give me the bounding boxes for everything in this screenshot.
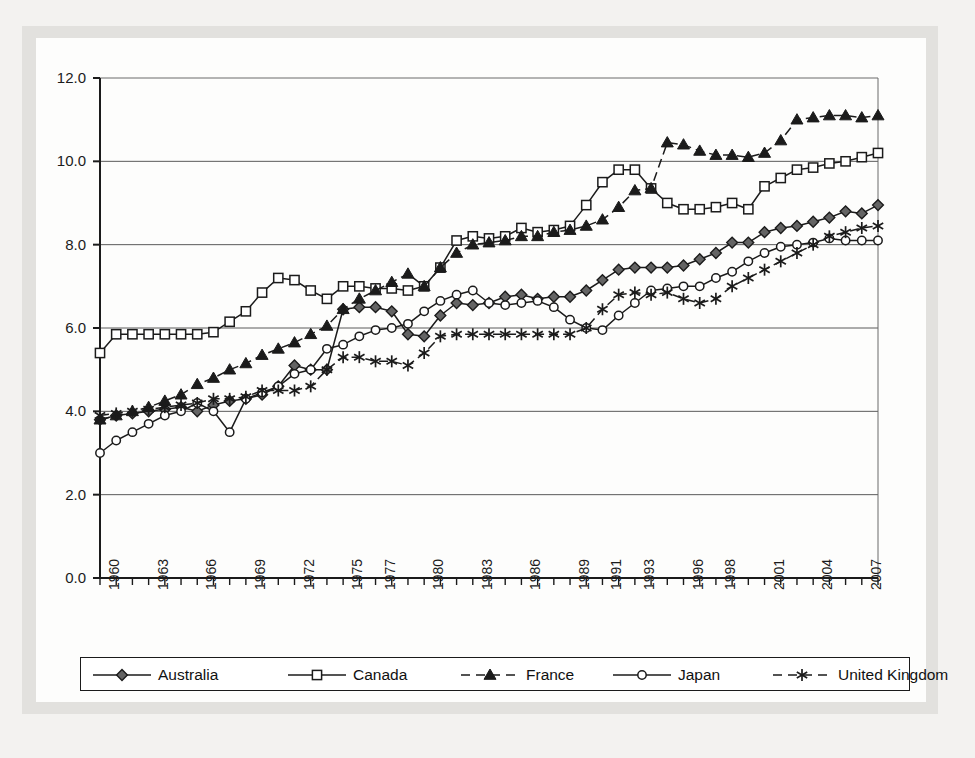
- filled-triangle-marker: [694, 145, 706, 155]
- x-tick-label: 1996: [690, 559, 706, 590]
- legend-item-japan[interactable]: Japan: [611, 658, 720, 692]
- open-square-marker: [95, 348, 104, 357]
- filled-diamond-marker: [856, 208, 867, 219]
- open-square-marker: [112, 330, 121, 339]
- asterisk-marker: [792, 247, 802, 259]
- open-circle-marker: [760, 249, 768, 257]
- x-tick-label: 1983: [479, 559, 495, 590]
- asterisk-marker: [840, 226, 850, 238]
- filled-diamond-marker: [678, 260, 689, 271]
- filled-triangle-marker: [353, 293, 365, 303]
- y-tick-label: 0.0: [40, 570, 86, 585]
- filled-diamond-marker: [840, 206, 851, 217]
- filled-triangle-marker: [596, 214, 608, 224]
- open-square-marker: [695, 205, 704, 214]
- open-circle-marker: [96, 449, 104, 457]
- filled-diamond-marker: [467, 300, 478, 311]
- filled-diamond-marker: [403, 329, 414, 340]
- open-square-marker: [728, 198, 737, 207]
- open-circle-marker: [112, 436, 120, 444]
- filled-diamond-marker: [386, 306, 397, 317]
- x-tick-label: 1969: [252, 559, 268, 590]
- x-tick-label: 1998: [722, 559, 738, 590]
- line-chart: 0.02.04.06.08.010.012.0 1960196319661969…: [0, 0, 975, 758]
- filled-triangle-marker: [678, 139, 690, 149]
- filled-diamond-marker: [824, 212, 835, 223]
- open-square-marker: [290, 275, 299, 284]
- open-square-marker: [452, 236, 461, 245]
- filled-diamond-marker: [629, 262, 640, 273]
- legend-label: Canada: [353, 666, 407, 684]
- filled-triangle-marker: [791, 114, 803, 124]
- legend-item-australia[interactable]: Australia: [91, 658, 218, 692]
- open-circle-marker: [225, 428, 233, 436]
- asterisk-marker: [306, 380, 316, 392]
- asterisk-marker: [678, 293, 688, 305]
- open-square-marker: [663, 198, 672, 207]
- open-square-marker: [339, 282, 348, 291]
- open-circle-marker: [388, 324, 396, 332]
- open-circle-marker: [517, 299, 525, 307]
- open-square-marker: [306, 286, 315, 295]
- asterisk-marker: [338, 351, 348, 363]
- asterisk-marker: [776, 255, 786, 267]
- plot-svg: [0, 0, 975, 758]
- open-square-marker: [582, 200, 591, 209]
- open-circle-marker: [566, 315, 574, 323]
- open-square-marker: [841, 157, 850, 166]
- chart-legend: AustraliaCanadaFranceJapanUnited Kingdom: [80, 657, 910, 691]
- asterisk-marker: [759, 264, 769, 276]
- open-square-marker: [403, 286, 412, 295]
- x-tick-label: 1972: [301, 559, 317, 590]
- open-circle-marker: [128, 428, 136, 436]
- open-circle-marker: [631, 299, 639, 307]
- y-tick-label: 4.0: [40, 403, 86, 418]
- open-square-marker: [209, 328, 218, 337]
- open-square-marker: [630, 165, 639, 174]
- legend-item-france[interactable]: France: [459, 658, 574, 692]
- filled-diamond-marker: [711, 248, 722, 259]
- legend-swatch-open-square-marker: [286, 665, 348, 685]
- asterisk-marker: [873, 220, 883, 232]
- x-tick-label: 1986: [527, 559, 543, 590]
- legend-swatch-filled-diamond-marker: [91, 665, 153, 685]
- open-circle-marker: [339, 340, 347, 348]
- filled-diamond-marker: [597, 275, 608, 286]
- legend-swatch-open-circle-marker: [611, 665, 673, 685]
- filled-diamond-marker: [548, 291, 559, 302]
- x-tick-label: 1963: [155, 559, 171, 590]
- open-circle-marker: [614, 311, 622, 319]
- open-circle-marker: [307, 365, 315, 373]
- filled-triangle-marker: [240, 357, 252, 367]
- x-tick-label: 2007: [868, 559, 884, 590]
- filled-diamond-marker: [727, 237, 738, 248]
- filled-triangle-marker: [759, 147, 771, 157]
- filled-triangle-marker: [726, 149, 738, 159]
- filled-diamond-marker: [565, 291, 576, 302]
- open-circle-marker: [355, 332, 363, 340]
- filled-diamond-marker: [759, 227, 770, 238]
- filled-diamond-marker: [808, 216, 819, 227]
- open-square-marker: [598, 178, 607, 187]
- asterisk-marker: [289, 385, 299, 397]
- filled-triangle-marker: [484, 669, 496, 679]
- asterisk-marker: [727, 280, 737, 292]
- legend-label: France: [526, 666, 574, 684]
- open-circle-marker: [371, 326, 379, 334]
- open-circle-marker: [638, 671, 646, 679]
- open-square-marker: [679, 205, 688, 214]
- open-circle-marker: [323, 345, 331, 353]
- open-square-marker: [176, 330, 185, 339]
- asterisk-marker: [695, 297, 705, 309]
- open-circle-marker: [485, 299, 493, 307]
- x-tick-label: 2004: [819, 559, 835, 590]
- legend-item-canada[interactable]: Canada: [286, 658, 407, 692]
- open-circle-marker: [728, 268, 736, 276]
- open-circle-marker: [696, 282, 704, 290]
- open-square-marker: [160, 330, 169, 339]
- open-square-marker: [792, 165, 801, 174]
- y-tick-label: 6.0: [40, 320, 86, 335]
- open-circle-marker: [679, 282, 687, 290]
- legend-item-united-kingdom[interactable]: United Kingdom: [771, 658, 948, 692]
- chart-page: 0.02.04.06.08.010.012.0 1960196319661969…: [0, 0, 975, 758]
